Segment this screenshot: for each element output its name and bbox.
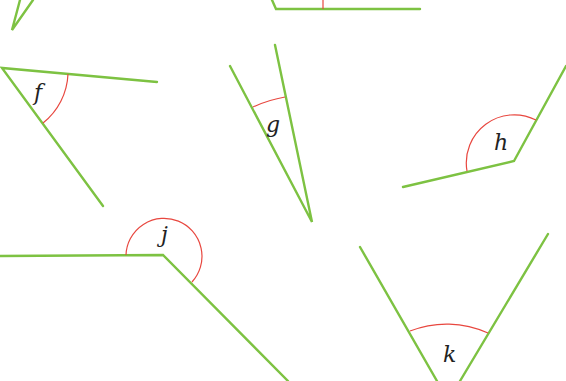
angle-label-g: g: [266, 112, 280, 137]
angle-label-j: j: [156, 222, 168, 247]
angle-k: k: [360, 234, 548, 381]
angle-rays: [403, 66, 566, 187]
angle-partial-top-left: [12, 0, 33, 30]
angle-rays: [12, 0, 33, 30]
angle-label-f: f: [32, 80, 46, 105]
angle-label-h: h: [494, 130, 508, 155]
angle-ray-right: [460, 234, 548, 381]
angle-h: h: [403, 66, 566, 187]
angle-rays: [2, 68, 157, 206]
angle-label-k: k: [443, 342, 456, 367]
angles-diagram: f g h j k: [0, 0, 566, 381]
angle-f: f: [2, 68, 157, 206]
angle-arc: [410, 324, 488, 333]
angle-j: j: [0, 218, 288, 381]
angle-partial-top-center: [272, 0, 420, 9]
angle-g: g: [230, 45, 312, 222]
angle-rays: [272, 0, 420, 9]
angle-ray-left: [360, 247, 437, 381]
angle-arc: [253, 97, 285, 107]
angle-arc: [43, 74, 68, 123]
angle-rays: [0, 255, 288, 381]
